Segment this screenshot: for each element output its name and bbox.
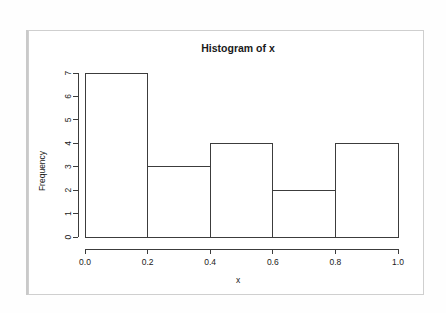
y-tick-label: 7 xyxy=(63,70,73,75)
x-tick-label: 0.0 xyxy=(79,257,91,267)
x-tick-label: 1.0 xyxy=(392,257,404,267)
x-axis: 0.00.20.40.60.81.0 xyxy=(79,249,404,267)
histogram-bar xyxy=(273,190,336,237)
histogram-bar xyxy=(85,73,148,237)
plot-panel: Histogram of x Frequency x 01234567 0.00… xyxy=(28,30,424,295)
y-tick-label: 4 xyxy=(63,141,73,146)
y-tick-label: 0 xyxy=(63,234,73,239)
histogram-bar xyxy=(148,167,211,237)
y-tick-label: 5 xyxy=(63,117,73,122)
histogram-bar xyxy=(335,143,398,237)
chart-title: Histogram of x xyxy=(201,42,275,54)
y-tick-label: 3 xyxy=(63,164,73,169)
x-tick-label: 0.2 xyxy=(142,257,154,267)
x-tick-label: 0.6 xyxy=(267,257,279,267)
histogram-bar xyxy=(210,143,273,237)
y-tick-label: 6 xyxy=(63,94,73,99)
x-tick-label: 0.8 xyxy=(329,257,341,267)
screenshot-root: Histogram of x Frequency x 01234567 0.00… xyxy=(0,0,446,313)
histogram-bars xyxy=(85,73,398,237)
x-axis-label: x xyxy=(236,275,241,285)
y-tick-label: 1 xyxy=(63,211,73,216)
y-axis: 01234567 xyxy=(63,70,78,239)
histogram-plot: Histogram of x Frequency x 01234567 0.00… xyxy=(29,31,425,296)
x-tick-label: 0.4 xyxy=(204,257,216,267)
y-tick-label: 2 xyxy=(63,188,73,193)
y-axis-label: Frequency xyxy=(37,150,47,191)
